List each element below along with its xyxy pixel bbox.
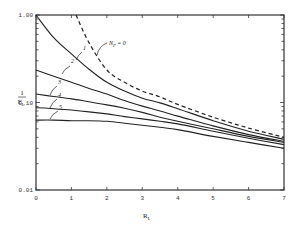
curve-label-5: 5	[59, 104, 62, 110]
x-tick-label: 5	[211, 195, 215, 202]
x-tick-label: 0	[34, 195, 38, 202]
x-tick-label: 6	[247, 195, 251, 202]
y-axis-ticks: 1.000.100.01	[19, 12, 284, 194]
curve-np-0	[76, 15, 284, 137]
x-tick-label: 7	[282, 195, 286, 202]
chart-canvas: 1.000.100.01 01234567 12345NP = 0 1 FL R…	[0, 0, 299, 230]
y-tick-label: 1.00	[19, 12, 34, 19]
curve-4	[36, 108, 284, 145]
svg-text:RL: RL	[143, 212, 151, 221]
x-axis-ticks: 01234567	[34, 15, 286, 202]
curves	[36, 15, 284, 148]
y-tick-label: 0.01	[19, 187, 34, 194]
curve-label-np-0: NP = 0	[108, 40, 126, 48]
curve-label-3: 3	[57, 79, 61, 85]
x-tick-label: 1	[70, 195, 74, 202]
x-tick-label: 4	[176, 195, 180, 202]
x-label-subscript: L	[148, 216, 151, 221]
y-label-numerator: 1	[20, 89, 24, 97]
x-axis-label: RL	[143, 212, 151, 221]
curve-label-1: 1	[83, 45, 86, 51]
x-tick-label: 2	[105, 195, 109, 202]
curve-label-2: 2	[71, 58, 74, 64]
curve-labels: 12345NP = 0	[50, 40, 126, 119]
curve-3	[36, 94, 284, 142]
curve-label-4: 4	[58, 92, 61, 98]
x-tick-label: 3	[140, 195, 144, 202]
